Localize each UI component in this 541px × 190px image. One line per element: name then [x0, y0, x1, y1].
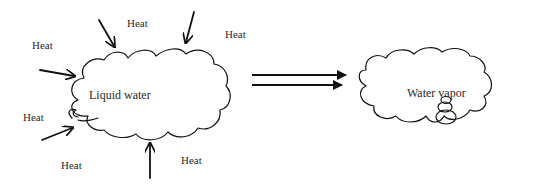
heat-label-bottom-right: Heat [181, 154, 202, 166]
heat-arrow-top-left [99, 20, 114, 46]
liquid-water-label: Liquid water [89, 88, 151, 102]
heat-label-top-right: Heat [225, 28, 246, 40]
heat-arrow-top-right [186, 12, 194, 42]
evaporation-diagram: Liquid water Heat Heat Heat Heat Heat He… [0, 0, 541, 190]
heat-arrow-bottom-left [42, 128, 72, 140]
heat-arrow-left [40, 70, 74, 76]
heat-label-top: Heat [127, 17, 148, 29]
water-vapor-cloud: Water vapor [359, 48, 491, 124]
liquid-water-cloud: Liquid water [69, 49, 230, 140]
heat-label-mid-left: Heat [23, 111, 44, 123]
transition-arrow [252, 75, 346, 85]
water-vapor-label: Water vapor [407, 86, 466, 100]
heat-label-left: Heat [32, 39, 53, 51]
heat-label-bottom-left: Heat [61, 159, 82, 171]
